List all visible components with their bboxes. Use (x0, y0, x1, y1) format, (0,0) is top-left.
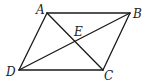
segments-group (19, 13, 130, 70)
segment-bd (19, 13, 130, 70)
vertex-label-c: C (104, 69, 113, 81)
vertex-label-d: D (5, 65, 16, 79)
segment-da (19, 13, 47, 70)
intersection-label-e: E (73, 25, 83, 39)
segment-bc (103, 13, 130, 70)
vertex-label-a: A (35, 3, 45, 17)
vertex-label-b: B (132, 7, 142, 21)
parallelogram-diagram: A B C D E (0, 0, 145, 81)
